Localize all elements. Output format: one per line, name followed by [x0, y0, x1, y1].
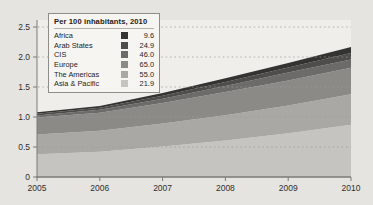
svg-text:1.0: 1.0 [18, 112, 30, 122]
legend-item: Asia & Pacific 21.9 [54, 79, 154, 89]
legend-color-swatch [121, 80, 128, 87]
legend-item-value: 9.6 [132, 31, 154, 40]
svg-text:0.5: 0.5 [18, 142, 30, 152]
svg-text:2.0: 2.0 [18, 52, 30, 62]
svg-text:2007: 2007 [153, 183, 172, 193]
chart-figure: 00.51.01.52.02.5200520062007200820092010… [0, 0, 373, 205]
svg-text:2010: 2010 [342, 183, 361, 193]
legend-color-swatch [121, 61, 128, 68]
legend-item-label: CIS [54, 50, 121, 59]
legend-item-label: Asia & Pacific [54, 79, 121, 88]
legend-title: Per 100 inhabitants, 2010 [54, 16, 154, 29]
svg-text:0: 0 [25, 172, 30, 182]
legend-item-value: 24.9 [132, 41, 154, 50]
legend-color-swatch [121, 42, 128, 49]
legend-color-swatch [121, 32, 128, 39]
svg-text:2008: 2008 [216, 183, 235, 193]
legend-item-value: 21.9 [132, 79, 154, 88]
legend-item: Europe 65.0 [54, 60, 154, 70]
chart-legend: Per 100 inhabitants, 2010 Africa 9.6 Ara… [48, 13, 160, 93]
legend-item-label: Africa [54, 31, 121, 40]
legend-item-label: Europe [54, 60, 121, 69]
svg-text:1.5: 1.5 [18, 82, 30, 92]
svg-text:2005: 2005 [28, 183, 47, 193]
svg-text:2009: 2009 [279, 183, 298, 193]
legend-item: Africa 9.6 [54, 31, 154, 41]
legend-item: CIS 46.0 [54, 50, 154, 60]
legend-item-label: The Americas [54, 70, 121, 79]
legend-color-swatch [121, 71, 128, 78]
legend-item: Arab States 24.9 [54, 41, 154, 51]
legend-item-value: 65.0 [132, 60, 154, 69]
svg-text:2.5: 2.5 [18, 22, 30, 32]
legend-item-value: 55.0 [132, 70, 154, 79]
legend-color-swatch [121, 51, 128, 58]
legend-item-label: Arab States [54, 41, 121, 50]
svg-text:2006: 2006 [90, 183, 109, 193]
legend-item: The Americas 55.0 [54, 69, 154, 79]
legend-item-value: 46.0 [132, 50, 154, 59]
